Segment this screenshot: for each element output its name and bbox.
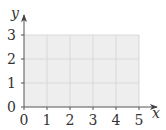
x-tick-labels: 0 1 2 3 4 5 xyxy=(20,112,144,128)
x-tick-label: 5 xyxy=(135,112,144,128)
y-tick-label: 1 xyxy=(7,75,16,91)
y-tick-label: 2 xyxy=(7,51,16,67)
grid-area xyxy=(24,35,139,107)
y-tick-label: 0 xyxy=(7,99,16,115)
y-axis-label: y xyxy=(10,5,20,21)
y-tick-label: 3 xyxy=(7,27,16,43)
x-tick-label: 4 xyxy=(112,112,121,128)
x-tick-label: 3 xyxy=(89,112,98,128)
x-tick-label: 2 xyxy=(66,112,75,128)
coordinate-grid-chart: 0 1 2 3 4 5 0 1 2 3 x y xyxy=(0,0,166,130)
x-tick-label: 1 xyxy=(43,112,52,128)
y-tick-labels: 0 1 2 3 xyxy=(7,27,16,115)
x-tick-label: 0 xyxy=(20,112,29,128)
x-axis-label: x xyxy=(152,105,160,121)
